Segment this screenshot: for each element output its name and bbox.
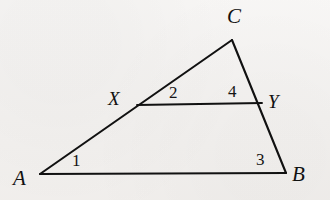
point-label-x: X xyxy=(108,89,120,108)
angle-label-1: 1 xyxy=(72,152,81,169)
angle-label-2: 2 xyxy=(169,84,178,101)
angle-label-3: 3 xyxy=(256,151,265,168)
angle-label-4: 4 xyxy=(228,83,237,100)
figure-canvas xyxy=(0,0,330,200)
segment-side-ac xyxy=(40,40,232,174)
vertex-label-b: B xyxy=(292,164,305,185)
segment-xy xyxy=(137,103,262,105)
point-label-y: Y xyxy=(268,92,279,111)
vertex-label-a: A xyxy=(13,168,26,189)
vertex-label-c: C xyxy=(227,6,241,27)
segment-side-ab xyxy=(40,173,286,174)
geometry-figure: A B C X Y 1 2 3 4 xyxy=(0,0,330,200)
